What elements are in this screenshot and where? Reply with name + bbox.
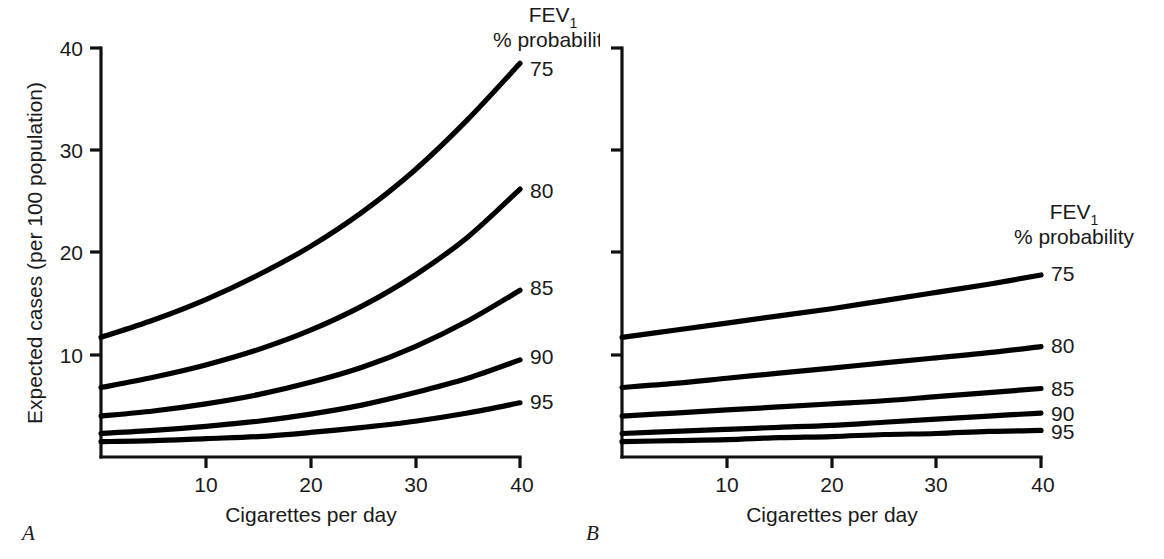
series-label-80-b: 80 — [1051, 334, 1074, 357]
panel-a: 40 30 20 10 10 20 30 40 Cigarettes per d… — [0, 0, 600, 559]
curve-85 — [622, 388, 1041, 416]
series-label-90-a: 90 — [530, 345, 553, 368]
x-axis-title-a: Cigarettes per day — [225, 503, 397, 526]
x-tick-label-10-a: 10 — [194, 473, 217, 496]
y-tick-label-10-a: 10 — [60, 344, 83, 367]
series-label-95-a: 95 — [530, 390, 553, 413]
y-ticks-a — [90, 48, 101, 355]
panel-a-plot: 40 30 20 10 10 20 30 40 Cigarettes per d… — [0, 0, 600, 559]
curve-75 — [622, 275, 1041, 337]
y-tick-label-30-a: 30 — [60, 139, 83, 162]
y-tick-label-40-a: 40 — [60, 37, 83, 60]
series-label-75-a: 75 — [530, 57, 553, 80]
panel-letter-a: A — [20, 521, 35, 545]
legend-title-b: FEV1 — [1050, 200, 1099, 228]
x-tick-label-20-b: 20 — [820, 473, 843, 496]
curve-75 — [101, 63, 520, 337]
panel-b-plot: 10 20 30 40 Cigarettes per day FEV1 % pr… — [564, 0, 1164, 559]
legend-subtitle-b: % probability — [1014, 225, 1135, 248]
series-label-75-b: 75 — [1051, 262, 1074, 285]
x-axis-title-b: Cigarettes per day — [746, 503, 918, 526]
curve-group-b — [622, 275, 1041, 442]
x-tick-label-30-b: 30 — [924, 473, 947, 496]
x-tick-label-40-b: 40 — [1031, 473, 1054, 496]
legend-fev-b: FEV — [1050, 200, 1091, 223]
x-tick-label-40-a: 40 — [510, 473, 533, 496]
y-axis-title-a: Expected cases (per 100 population) — [23, 82, 46, 424]
curve-80 — [101, 189, 520, 387]
figure-container: 40 30 20 10 10 20 30 40 Cigarettes per d… — [0, 0, 1164, 559]
panel-b: 10 20 30 40 Cigarettes per day FEV1 % pr… — [564, 0, 1164, 559]
x-tick-label-20-a: 20 — [299, 473, 322, 496]
y-ticks-b — [611, 48, 622, 355]
curve-90 — [101, 360, 520, 434]
series-label-85-a: 85 — [530, 276, 553, 299]
curve-85 — [101, 290, 520, 416]
series-label-80-a: 80 — [530, 179, 553, 202]
curve-group-a — [101, 63, 520, 441]
x-tick-label-30-a: 30 — [404, 473, 427, 496]
x-tick-label-10-b: 10 — [715, 473, 738, 496]
series-label-95-b: 95 — [1051, 420, 1074, 443]
series-label-85-b: 85 — [1051, 377, 1074, 400]
y-tick-label-20-a: 20 — [60, 241, 83, 264]
x-ticks-a — [206, 457, 520, 468]
curve-80 — [622, 347, 1041, 388]
x-ticks-b — [727, 457, 1041, 468]
panel-letter-b: B — [586, 521, 599, 545]
